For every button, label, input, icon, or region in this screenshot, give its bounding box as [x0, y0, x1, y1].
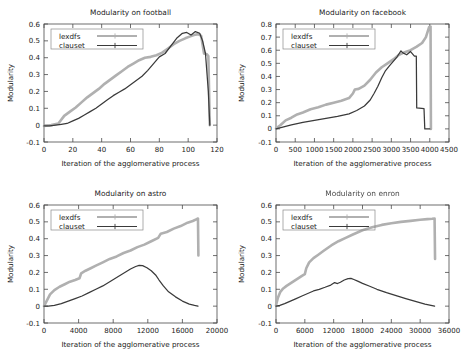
- chart-football: Modularity on football-0.100.10.20.30.40…: [0, 0, 230, 178]
- y-tick-label: -0.1: [26, 139, 40, 147]
- x-tick-label: 0: [42, 146, 46, 154]
- legend-label-lexdfs: lexdfs: [59, 212, 81, 221]
- y-axis-label: Modularity: [6, 63, 15, 102]
- x-tick-label: 1000: [305, 146, 323, 154]
- series-line-clauset: [44, 265, 198, 306]
- x-tick-label: 16000: [171, 326, 193, 334]
- x-tick-label: 3000: [382, 146, 400, 154]
- y-tick-label: 0: [267, 302, 271, 310]
- y-tick-label: 0.5: [260, 218, 271, 226]
- x-tick-label: 6000: [295, 326, 313, 334]
- x-tick-label: 120: [210, 146, 223, 154]
- y-axis-label: Modularity: [237, 63, 246, 102]
- x-tick-label: 80: [155, 146, 164, 154]
- legend-label-lexdfs: lexdfs: [59, 32, 81, 41]
- y-tick-label: 0.6: [260, 47, 272, 55]
- y-tick-label: 0.4: [29, 54, 41, 62]
- chart-facebook: Modularity on facebook-0.100.10.20.30.40…: [231, 0, 461, 178]
- x-tick-label: 0: [273, 146, 277, 154]
- panel-enron: Modularity on enron-0.100.10.20.30.40.50…: [231, 179, 461, 357]
- x-tick-label: 4500: [440, 146, 458, 154]
- x-tick-label: 0: [273, 326, 277, 334]
- legend-label-lexdfs: lexdfs: [291, 32, 313, 41]
- y-tick-label: 0.1: [29, 105, 40, 113]
- y-tick-label: 0.2: [260, 269, 271, 277]
- x-tick-label: 1500: [324, 146, 342, 154]
- x-tick-label: 36000: [437, 326, 459, 334]
- x-tick-label: 0: [42, 326, 46, 334]
- x-tick-label: 2500: [363, 146, 381, 154]
- x-axis-label: Iteration of the agglomerative process: [293, 159, 431, 168]
- x-tick-label: 24000: [380, 326, 402, 334]
- y-tick-label: 0.2: [260, 99, 271, 107]
- x-tick-label: 3500: [401, 146, 419, 154]
- series-line-lexdfs: [276, 218, 435, 305]
- panel-football: Modularity on football-0.100.10.20.30.40…: [0, 0, 230, 178]
- chart-title: Modularity on enron: [325, 189, 400, 198]
- y-tick-label: -0.1: [258, 139, 272, 147]
- x-tick-label: 20: [68, 146, 77, 154]
- y-tick-label: 0: [36, 302, 40, 310]
- y-tick-label: 0: [267, 125, 271, 133]
- y-tick-label: 0.1: [260, 112, 271, 120]
- chart-enron: Modularity on enron-0.100.10.20.30.40.50…: [231, 179, 461, 357]
- x-tick-label: 40: [97, 146, 106, 154]
- x-tick-label: 4000: [420, 146, 438, 154]
- x-axis-label: Iteration of the agglomerative process: [61, 159, 199, 168]
- y-tick-label: 0.3: [260, 86, 271, 94]
- y-tick-label: 0.4: [260, 235, 272, 243]
- y-tick-label: 0.6: [29, 201, 41, 209]
- y-tick-label: 0.5: [29, 37, 40, 45]
- legend-label-clauset: clauset: [291, 222, 317, 231]
- y-tick-label: 0.3: [260, 252, 271, 260]
- series-line-clauset: [276, 278, 435, 306]
- x-tick-label: 2000: [343, 146, 361, 154]
- panel-astro: Modularity on astro-0.100.10.20.30.40.50…: [0, 179, 230, 357]
- x-tick-label: 12000: [137, 326, 159, 334]
- series-line-clauset: [276, 51, 430, 129]
- x-tick-label: 30000: [409, 326, 431, 334]
- x-tick-label: 8000: [104, 326, 122, 334]
- y-axis-label: Modularity: [6, 244, 15, 283]
- legend-label-clauset: clauset: [59, 222, 85, 231]
- y-tick-label: 0.2: [29, 269, 40, 277]
- y-tick-label: -0.1: [258, 319, 272, 327]
- x-tick-label: 100: [181, 146, 194, 154]
- chart-title: Modularity on football: [90, 8, 171, 17]
- y-axis-label: Modularity: [237, 244, 246, 283]
- x-tick-label: 20000: [206, 326, 228, 334]
- x-tick-label: 12000: [322, 326, 344, 334]
- x-tick-label: 18000: [351, 326, 373, 334]
- x-tick-label: 4000: [70, 326, 88, 334]
- y-tick-label: 0.5: [260, 60, 271, 68]
- y-tick-label: 0.3: [29, 252, 40, 260]
- y-tick-label: 0: [36, 122, 40, 130]
- y-tick-label: 0.7: [260, 34, 271, 42]
- y-tick-label: 0.1: [29, 285, 40, 293]
- chart-title: Modularity on astro: [95, 189, 167, 198]
- figure-grid: Modularity on football-0.100.10.20.30.40…: [0, 0, 461, 357]
- chart-astro: Modularity on astro-0.100.10.20.30.40.50…: [0, 179, 230, 357]
- y-tick-label: 0.8: [260, 21, 271, 29]
- y-tick-label: -0.1: [26, 319, 40, 327]
- x-tick-label: 500: [288, 146, 301, 154]
- y-tick-label: 0.6: [29, 21, 41, 29]
- legend-label-lexdfs: lexdfs: [291, 212, 313, 221]
- series-line-lexdfs: [44, 218, 198, 306]
- x-axis-label: Iteration of the agglomerative process: [293, 340, 431, 349]
- y-tick-label: 0.6: [260, 201, 272, 209]
- panel-facebook: Modularity on facebook-0.100.10.20.30.40…: [231, 0, 461, 178]
- y-tick-label: 0.2: [29, 88, 40, 96]
- y-tick-label: 0.5: [29, 218, 40, 226]
- y-tick-label: 0.4: [29, 235, 41, 243]
- x-axis-label: Iteration of the agglomerative process: [61, 340, 199, 349]
- y-tick-label: 0.1: [260, 285, 271, 293]
- y-tick-label: 0.4: [260, 73, 272, 81]
- legend-label-clauset: clauset: [59, 41, 85, 50]
- y-tick-label: 0.3: [29, 71, 40, 79]
- chart-title: Modularity on facebook: [319, 8, 407, 17]
- legend-label-clauset: clauset: [291, 41, 317, 50]
- x-tick-label: 60: [126, 146, 135, 154]
